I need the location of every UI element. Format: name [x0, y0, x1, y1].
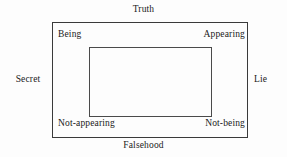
- axis-label-lie: Lie: [254, 74, 282, 85]
- axis-label-secret: Secret: [8, 74, 48, 85]
- corner-label-being: Being: [58, 29, 81, 40]
- corner-label-appearing: Appearing: [142, 29, 245, 40]
- axis-label-falsehood: Falsehood: [0, 140, 287, 151]
- corner-label-not-appearing: Not-appearing: [58, 118, 115, 129]
- axis-label-truth: Truth: [0, 4, 287, 15]
- corner-label-not-being: Not-being: [142, 118, 245, 129]
- inner-rectangle: [89, 47, 212, 117]
- semiotic-square-diagram: Truth Falsehood Secret Lie Being Appeari…: [0, 0, 287, 157]
